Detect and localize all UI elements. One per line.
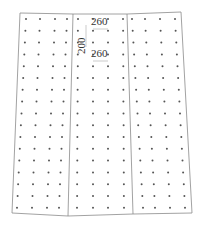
- grid-dot: [122, 65, 124, 67]
- grid-dot: [132, 30, 134, 32]
- grid-dot: [147, 77, 149, 79]
- grid-dot: [107, 89, 109, 91]
- grid-dot: [76, 195, 78, 197]
- grid-dot: [64, 65, 66, 67]
- dot-grid-diagram: [0, 0, 200, 232]
- grid-dot: [122, 30, 124, 32]
- grid-dot: [180, 136, 182, 138]
- grid-dot: [92, 101, 94, 103]
- grid-dot: [167, 160, 169, 162]
- grid-dot: [19, 136, 21, 138]
- grid-dot: [141, 183, 143, 185]
- grid-dot: [107, 42, 109, 44]
- grid-dot: [46, 207, 48, 209]
- grid-dot: [92, 89, 94, 91]
- grid-dot: [76, 124, 78, 126]
- grid-dot: [139, 148, 141, 150]
- panel-divider-1: [68, 14, 73, 216]
- grid-dot: [122, 42, 124, 44]
- grid-dot: [141, 195, 143, 197]
- grid-dot: [140, 171, 142, 173]
- grid-dot: [162, 65, 164, 67]
- grid-dot: [33, 171, 35, 173]
- grid-dot: [165, 136, 167, 138]
- grid-dot: [123, 124, 125, 126]
- grid-dot: [77, 77, 79, 79]
- grid-dot: [107, 112, 109, 114]
- grid-dot: [92, 207, 94, 209]
- grid-dot: [77, 89, 79, 91]
- grid-dot: [52, 77, 54, 79]
- grid-dot: [107, 53, 109, 55]
- grid-dot: [167, 171, 169, 173]
- grid-dot: [179, 112, 181, 114]
- grid-dot: [132, 42, 134, 44]
- grid-dot: [92, 136, 94, 138]
- panel-dividers: [68, 14, 133, 216]
- grid-dot: [47, 183, 49, 185]
- grid-dot: [122, 89, 124, 91]
- grid-dot: [123, 207, 125, 209]
- grid-dot: [76, 207, 78, 209]
- grid-dot: [123, 171, 125, 173]
- grid-dot: [122, 77, 124, 79]
- grid-dot: [175, 30, 177, 32]
- grid-dot: [51, 89, 53, 91]
- grid-dot: [145, 42, 147, 44]
- grid-dot: [76, 148, 78, 150]
- grid-dot: [92, 65, 94, 67]
- grid-dot: [175, 42, 177, 44]
- grid-dot: [77, 65, 79, 67]
- grid-dot: [21, 101, 23, 103]
- grid-dot: [122, 101, 124, 103]
- grid-dot: [150, 124, 152, 126]
- grid-dot: [123, 112, 125, 114]
- grid-dot: [92, 195, 94, 197]
- grid-dot: [54, 30, 56, 32]
- grid-dot: [34, 148, 36, 150]
- grid-dot: [142, 207, 144, 209]
- grid-dot: [54, 18, 56, 20]
- grid-dot: [184, 207, 186, 209]
- grid-dot: [34, 136, 36, 138]
- grid-dot: [23, 53, 25, 55]
- grid-dot: [168, 195, 170, 197]
- grid-dot: [92, 30, 94, 32]
- grid-dot: [59, 195, 61, 197]
- grid-dot: [178, 89, 180, 91]
- grid-dot: [63, 89, 65, 91]
- grid-dot: [92, 53, 94, 55]
- grid-dot: [137, 112, 139, 114]
- grid-dot: [183, 183, 185, 185]
- grid-dot: [76, 183, 78, 185]
- grid-dot: [60, 160, 62, 162]
- grid-dot: [145, 30, 147, 32]
- grid-dot: [92, 148, 94, 150]
- grid-dot: [77, 53, 79, 55]
- grid-dot: [48, 171, 50, 173]
- grid-dot: [32, 195, 34, 197]
- grid-dot: [65, 53, 67, 55]
- grid-dot: [17, 195, 19, 197]
- grid-dot: [146, 53, 148, 55]
- grid-dot: [138, 136, 140, 138]
- grid-dot: [135, 89, 137, 91]
- grid-dot: [38, 42, 40, 44]
- grid-dot: [77, 42, 79, 44]
- grid-dot: [39, 18, 41, 20]
- grid-dot: [182, 160, 184, 162]
- grid-dot: [66, 18, 68, 20]
- grid-dot: [77, 18, 79, 20]
- grid-dot: [163, 101, 165, 103]
- grid-dot: [58, 207, 60, 209]
- grid-dot: [183, 195, 185, 197]
- grid-dot: [61, 148, 63, 150]
- grid-dot: [153, 195, 155, 197]
- grid-dot: [92, 160, 94, 162]
- grid-dot: [161, 53, 163, 55]
- grid-dot: [122, 53, 124, 55]
- grid-dot: [107, 148, 109, 150]
- grid-dot: [107, 65, 109, 67]
- panel-divider-2: [127, 14, 133, 214]
- grid-dot: [107, 195, 109, 197]
